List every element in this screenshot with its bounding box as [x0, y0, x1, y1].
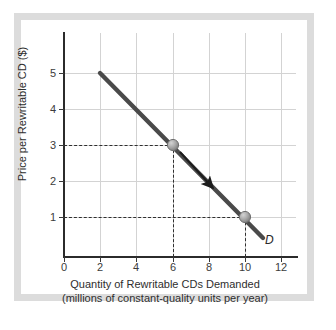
- demand-curve-line: [100, 73, 263, 238]
- y-axis-title: Price per Rewritable CD ($): [16, 14, 28, 214]
- x-axis-title-line2: (millions of constant-quality units per …: [30, 291, 300, 305]
- chart-plot-area: 0 2 4 6 8 10 12 1 2 3 4 5: [0, 0, 336, 330]
- demand-curve-label: D: [265, 233, 274, 247]
- x-axis-title-line1: Quantity of Rewritable CDs Demanded: [30, 277, 300, 291]
- figure-frame: 0 2 4 6 8 10 12 1 2 3 4 5: [0, 0, 336, 330]
- movement-arrow: [180, 152, 213, 188]
- x-axis-title: Quantity of Rewritable CDs Demanded (mil…: [30, 277, 300, 305]
- data-point-marker-10-1: [239, 211, 250, 222]
- data-point-marker-6-3: [167, 139, 178, 150]
